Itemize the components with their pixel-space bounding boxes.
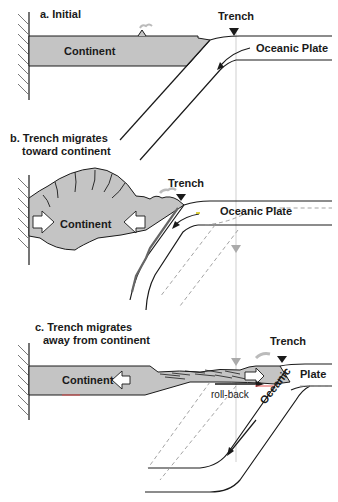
subduction-diagram: a. Initial Continent Trench Oceanic Plat… — [0, 0, 338, 502]
trench-label-b: Trench — [168, 177, 204, 189]
plate-label-c-part2: Plate — [300, 368, 326, 380]
continent-label-b: Continent — [60, 218, 112, 230]
rollback-label: roll-back — [211, 389, 250, 400]
continent-label-a: Continent — [64, 45, 116, 57]
plate-label-b: Oceanic Plate — [220, 205, 292, 217]
reference-marker-c — [231, 358, 241, 366]
panel-b: b. Trench migrates toward continent Cont… — [10, 132, 332, 310]
reference-marker-b — [231, 245, 241, 253]
panel-b-title-line2: toward continent — [22, 145, 111, 157]
panel-c-title-line1: c. Trench migrates — [35, 321, 132, 333]
panel-c-title-line2: away from continent — [43, 334, 150, 346]
trench-label-a: Trench — [218, 10, 254, 22]
panel-a-title: a. Initial — [40, 8, 81, 20]
trench-marker-c — [277, 356, 287, 363]
panel-c: c. Trench migrates away from continent C… — [18, 321, 332, 492]
trench-marker-a — [229, 28, 239, 36]
panel-b-title-line1: b. Trench migrates — [10, 132, 108, 144]
trench-label-c: Trench — [270, 335, 306, 347]
plate-label-a: Oceanic Plate — [256, 42, 328, 54]
continent-label-c: Continent — [62, 374, 114, 386]
